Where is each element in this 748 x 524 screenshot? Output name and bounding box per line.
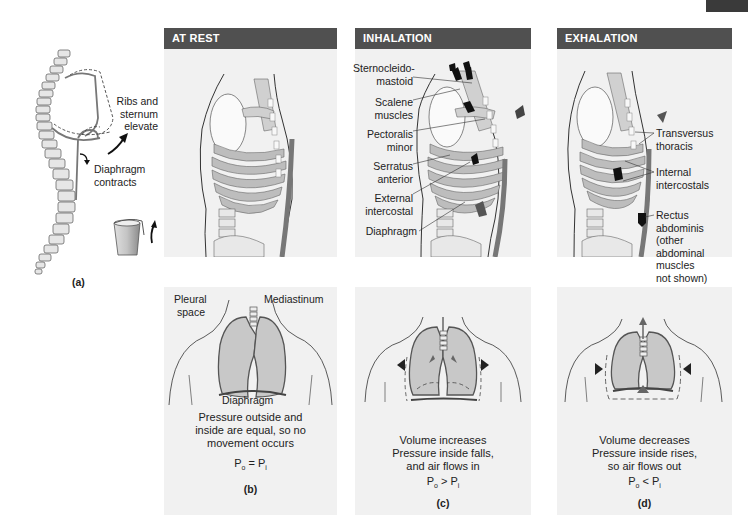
lung-panel-inhalation: Volume increases Pressure inside falls, …: [355, 287, 531, 515]
label-line: Pleural: [174, 293, 214, 306]
eq-rhs: P: [450, 475, 457, 487]
label-mediastinum: Mediastinum: [264, 293, 324, 306]
arrow-outward-icon: [515, 105, 525, 119]
label-line: Scalene: [353, 96, 413, 109]
torso-panel-inhalation: Sternocleido- mastoid Scalene muscles Pe…: [355, 49, 531, 257]
page-corner-tab: [706, 0, 748, 12]
lung-panel-at-rest: Pleural space Mediastinum Diaphragm Pres…: [164, 287, 337, 515]
eq-operator: >: [438, 475, 451, 487]
label-line: abdominis: [656, 222, 707, 235]
equation-at-rest: Po = Pi: [164, 457, 337, 471]
caption-line: Pressure inside rises,: [557, 447, 732, 460]
label-line: sternum: [108, 108, 158, 121]
panel-letter-c: (c): [355, 497, 531, 509]
label-line: contracts: [94, 176, 145, 189]
caption-line: Volume increases: [355, 434, 531, 447]
label-diaphragm: Diaphragm: [222, 394, 273, 407]
label-line: Sternocleido-: [353, 62, 413, 75]
label-line: thoracis: [656, 140, 713, 153]
label-diaphragm: Diaphragm: [353, 225, 417, 238]
label-pleural-space: Pleural space: [174, 293, 214, 318]
label-serratus-anterior: Serratus anterior: [353, 160, 413, 185]
header-at-rest: AT REST: [164, 28, 337, 49]
header-exhalation: EXHALATION: [557, 28, 732, 49]
label-line: abdominal: [656, 247, 707, 260]
panel-letter-d: (d): [557, 497, 732, 509]
label-internal-intercostals: Internal intercostals: [656, 166, 709, 191]
label-line: anterior: [353, 173, 413, 186]
bucket-handle-icon: [110, 215, 160, 260]
label-line: Diaphragm: [353, 225, 417, 238]
caption-line: Volume decreases: [557, 434, 732, 447]
lung-panel-exhalation: Volume decreases Pressure inside rises, …: [557, 287, 732, 515]
label-line: Ribs and: [108, 95, 158, 108]
arrow-inward-icon: [683, 363, 691, 375]
label-line: mastoid: [353, 75, 413, 88]
curved-arrow-icon: [151, 225, 154, 243]
arrow-outward-icon: [481, 359, 489, 371]
label-line: intercostal: [353, 205, 413, 218]
equation-inhalation: Po > Pi: [355, 475, 531, 489]
label-sternocleidomastoid: Sternocleido- mastoid: [353, 62, 413, 87]
panel-letter-a: (a): [72, 276, 85, 288]
caption-inhalation: Volume increases Pressure inside falls, …: [355, 434, 531, 473]
torso-muscle-illustration: [164, 49, 337, 257]
label-line: Internal: [656, 166, 709, 179]
caption-exhalation: Volume decreases Pressure inside rises, …: [557, 434, 732, 473]
label-line: Transversus: [656, 127, 713, 140]
eq-rhs-sub: i: [659, 482, 661, 489]
label-line: Rectus: [656, 209, 707, 222]
arrow-inward-icon: [595, 363, 603, 375]
panel-letter-b: (b): [164, 483, 337, 495]
caption-line: so air flows out: [557, 460, 732, 473]
label-pectoralis-minor: Pectoralis minor: [353, 128, 413, 153]
eq-operator: <: [639, 475, 652, 487]
torso-panel-exhalation: Transversus thoracis Internal intercosta…: [557, 49, 732, 257]
label-line: minor: [353, 141, 413, 154]
label-line: Pectoralis: [353, 128, 413, 141]
label-line: not shown): [656, 272, 707, 285]
panel-a-spine-rib-cage: Ribs and sternum elevate Diaphragm contr…: [0, 0, 160, 300]
label-line: intercostals: [656, 179, 709, 192]
caption-line: Pressure outside and: [164, 411, 337, 424]
label-transversus-thoracis: Transversus thoracis: [656, 127, 713, 152]
label-line: Diaphragm: [94, 163, 145, 176]
label-line: muscles: [353, 109, 413, 122]
label-line: Serratus: [353, 160, 413, 173]
caption-line: Pressure inside falls,: [355, 447, 531, 460]
label-diaphragm-contracts: Diaphragm contracts: [94, 163, 145, 188]
label-external-intercostal: External intercostal: [353, 192, 413, 217]
label-scalene-muscles: Scalene muscles: [353, 96, 413, 121]
header-inhalation: INHALATION: [355, 28, 531, 49]
label-line: space: [174, 306, 214, 319]
equation-exhalation: Po < Pi: [557, 475, 732, 489]
caption-line: inside are equal, so no: [164, 424, 337, 437]
caption-at-rest: Pressure outside and inside are equal, s…: [164, 411, 337, 450]
eq-lhs: P: [427, 475, 434, 487]
label-ribs-sternum-elevate: Ribs and sternum elevate: [108, 95, 158, 133]
arrow-inward-icon: [657, 111, 667, 123]
air-out-arrow-icon: [639, 317, 647, 325]
label-line: External: [353, 192, 413, 205]
arrow-outward-icon: [397, 359, 405, 371]
lung-diagram-exhalation: [557, 287, 732, 407]
label-line: muscles: [656, 259, 707, 272]
label-line: elevate: [108, 120, 158, 133]
caption-line: and air flows in: [355, 460, 531, 473]
torso-panel-at-rest: [164, 49, 337, 257]
label-rectus-abdominis: Rectus abdominis (other abdominal muscle…: [656, 209, 707, 284]
eq-rhs-sub: i: [458, 482, 460, 489]
lung-diagram-inhalation: [355, 287, 531, 407]
label-line: (other: [656, 234, 707, 247]
eq-rhs-sub: i: [265, 464, 267, 471]
eq-operator: =: [245, 457, 258, 469]
caption-line: movement occurs: [164, 437, 337, 450]
